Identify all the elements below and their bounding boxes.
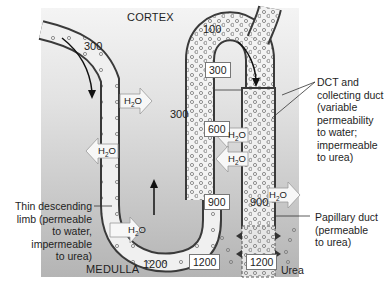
nephron-diagram: CORTEX MEDULLA 300 100 300 1200 900 300 …: [0, 0, 389, 281]
water-label: H2O: [124, 95, 142, 108]
thin-descending-limb-label: Thin descending limb (permeable to water…: [0, 200, 92, 263]
water-label: H2O: [98, 145, 116, 158]
water-label: H2O: [228, 129, 246, 142]
water-label: H2O: [128, 224, 146, 237]
osmolarity-box-900: 900: [204, 194, 230, 210]
ascending-mid-value: 300: [170, 108, 188, 120]
urea-label: Urea: [281, 264, 304, 276]
collecting-900-value: 900: [250, 196, 268, 208]
water-label: H2O: [269, 189, 287, 202]
loop-bottom-value: 1200: [143, 258, 167, 270]
osmolarity-box-1200-duct: 1200: [246, 254, 277, 270]
osmolarity-box-600: 600: [204, 121, 230, 137]
descending-start-value: 300: [84, 40, 102, 52]
cortex-label: CORTEX: [127, 11, 174, 23]
water-label: H2O: [228, 153, 246, 166]
medulla-label: MEDULLA: [86, 263, 139, 275]
dct-collecting-duct-label: DCT and collecting duct (variable permea…: [317, 76, 384, 164]
osmolarity-box-1200-interstitial: 1200: [189, 254, 220, 270]
loop-top-value: 100: [203, 23, 221, 35]
papillary-duct-label: Papillary duct (permeable to urea): [315, 211, 378, 249]
osmolarity-box-300: 300: [205, 62, 231, 78]
